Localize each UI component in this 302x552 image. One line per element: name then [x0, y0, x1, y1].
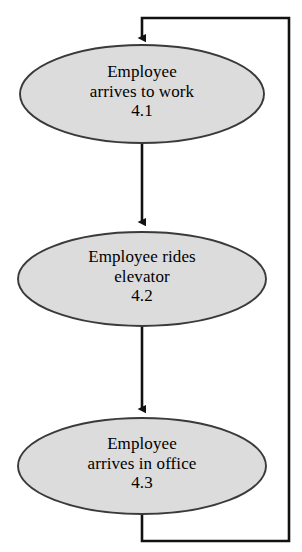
node-ellipse-4-2[interactable]	[18, 232, 266, 326]
node-ellipse-4-3[interactable]	[18, 418, 266, 514]
flowchart-svg	[0, 0, 302, 552]
flowchart-canvas: Employee arrives to work 4.1 Employee ri…	[0, 0, 302, 552]
node-ellipse-4-1[interactable]	[20, 45, 264, 143]
